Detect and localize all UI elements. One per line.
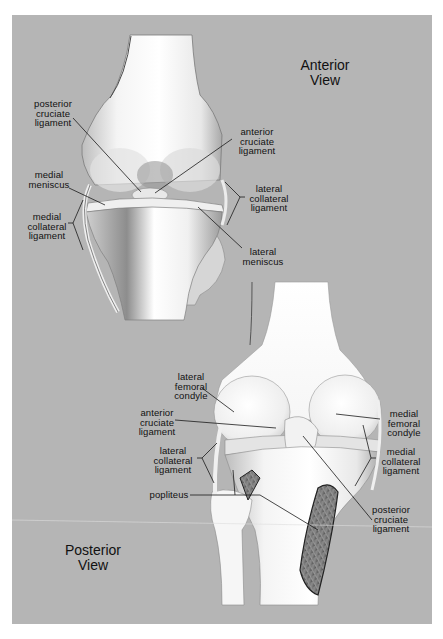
label-posterior-lateral-collateral-ligament: lateral collateral ligament [148, 446, 198, 475]
anterior-knee-illustration [82, 35, 226, 320]
anterior-view-title: Anterior View [280, 58, 370, 88]
label-posterior-medial-collateral-ligament: medial collateral ligament [375, 447, 427, 476]
label-anterior-anterior-cruciate-ligament: anterior cruciate ligament [232, 127, 282, 156]
label-anterior-lateral-collateral-ligament: lateral collateral ligament [243, 184, 295, 213]
posterior-fibula [211, 490, 252, 605]
label-anterior-medial-collateral-ligament: medial collateral ligament [22, 212, 72, 241]
label-posterior-popliteus: popliteus [148, 490, 190, 500]
posterior-knee-illustration [211, 282, 381, 605]
posterior-medial-condyle [309, 375, 381, 445]
label-posterior-lateral-femoral-condyle: lateral femoral condyle [168, 372, 214, 401]
label-anterior-posterior-cruciate-ligament: posterior cruciate ligament [28, 99, 78, 128]
label-posterior-anterior-cruciate-ligament: anterior cruciate ligament [134, 408, 180, 437]
leader-ant-medial-collateral [73, 200, 83, 250]
posterior-view-title: Posterior View [48, 543, 138, 573]
label-anterior-medial-meniscus: medial meniscus [27, 170, 71, 189]
label-posterior-medial-femoral-condyle: medial femoral condyle [382, 409, 426, 438]
label-posterior-posterior-cruciate-ligament: posterior cruciate ligament [366, 505, 416, 534]
label-anterior-lateral-meniscus: lateral meniscus [238, 247, 288, 266]
